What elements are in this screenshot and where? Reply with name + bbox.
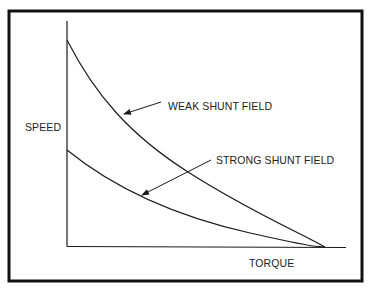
speed-torque-diagram: SPEED TORQUE WEAK SHUNT FIELD STRONG SHU…	[0, 0, 371, 291]
x-axis-label: TORQUE	[249, 257, 294, 269]
strong-shunt-field-label: STRONG SHUNT FIELD	[216, 154, 335, 166]
weak-shunt-field-label: WEAK SHUNT FIELD	[168, 100, 272, 112]
x-axis	[67, 247, 346, 248]
strong-field-arrow	[142, 160, 211, 195]
weak-shunt-field-curve	[67, 40, 325, 247]
figure-border	[9, 11, 362, 281]
weak-field-arrow	[124, 102, 161, 114]
y-axis-label: SPEED	[25, 121, 61, 133]
